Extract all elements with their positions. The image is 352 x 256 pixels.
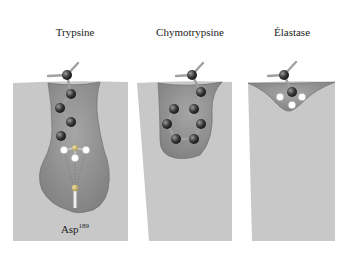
asp189-label: Asp189	[50, 222, 100, 235]
chymotrypsin-panel	[137, 63, 232, 241]
protease-pockets-illustration	[0, 0, 352, 256]
elastase-panel	[248, 62, 335, 241]
residue-number: 189	[79, 222, 90, 230]
residue-name: Asp	[61, 223, 79, 235]
trypsin-title: Trypsine	[40, 26, 110, 38]
trypsin-panel	[13, 63, 128, 241]
elastase-title: Élastase	[262, 26, 322, 38]
asp189-atom	[72, 185, 78, 191]
chymotrypsin-title: Chymotrypsine	[145, 26, 235, 38]
